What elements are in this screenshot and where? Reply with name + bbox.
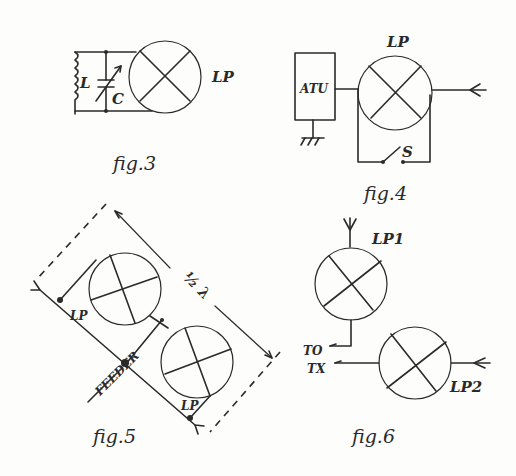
loop-antenna-symbol (358, 56, 432, 130)
to-tx-label-line1: TO (303, 344, 323, 358)
loop-label-lower: LP (180, 399, 199, 413)
inductor-symbol (75, 52, 78, 114)
feed-line-arrow-right (451, 358, 490, 368)
feeder-underline (88, 368, 122, 402)
lp2-label: LP2 (449, 378, 482, 396)
atu-label: ATU (299, 82, 330, 96)
spacing-label: ½ λ (179, 268, 214, 303)
lp1-label: LP1 (371, 230, 404, 248)
switch-label: S (402, 143, 413, 161)
to-tx-label-line2: TX (307, 362, 326, 376)
wire-lp1-tx (330, 320, 351, 346)
ground-symbol (301, 120, 324, 145)
figure-4: ATU LP S fig.4 (295, 33, 486, 204)
capacitor-label: C (112, 90, 124, 108)
figure-5: ½ λ LP LP FEEDER fig.5 (31, 204, 280, 447)
loop-label-upper: LP (69, 309, 88, 323)
figure-caption: fig.6 (350, 425, 395, 447)
figure-caption: fig.5 (91, 425, 136, 447)
loop-antenna-symbol (129, 41, 201, 113)
inductor-label: L (79, 74, 91, 92)
loop-antenna-upper (89, 253, 161, 325)
feed-line-arrow-top (344, 218, 356, 247)
feed-line-arrow (432, 84, 486, 96)
shorting-switch (358, 89, 430, 164)
diagram-canvas: L C LP fig.3 ATU LP (0, 0, 516, 476)
figure-caption: fig.3 (111, 152, 156, 174)
figure-3: L C LP fig.3 (75, 41, 235, 174)
figure-6: LP1 LP2 TO TX fig.6 (303, 218, 490, 447)
loop-label: LP (211, 68, 235, 86)
loop-antenna-lower (161, 326, 233, 398)
loop-label: LP (386, 33, 410, 51)
figure-caption: fig.4 (362, 182, 407, 204)
loop-antenna-lp1 (315, 248, 387, 320)
dashed-boundary-right (210, 352, 280, 432)
drawing: L C LP fig.3 ATU LP (0, 0, 516, 476)
loop-antenna-lp2 (379, 327, 451, 399)
